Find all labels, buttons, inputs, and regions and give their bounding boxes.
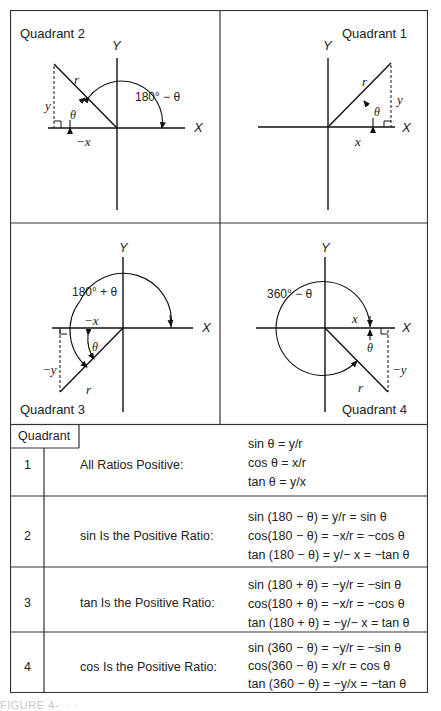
q2-axis-y: Y bbox=[112, 38, 121, 53]
row-equation: sin θ = y/r bbox=[248, 435, 303, 454]
row-equation: cos(180 + θ) = −x/r = −cos θ bbox=[248, 595, 405, 614]
row-quadrant-number: 1 bbox=[24, 458, 31, 472]
quadrant-4-graph bbox=[256, 257, 395, 412]
row-equation: cos(360 − θ) = x/r = cos θ bbox=[248, 657, 390, 676]
row-equation: cos θ = x/r bbox=[248, 454, 306, 473]
row-equation: sin (180 − θ) = y/r = sin θ bbox=[248, 508, 387, 527]
quadrant-1-title: Quadrant 1 bbox=[342, 26, 407, 41]
quadrant-2-graph bbox=[48, 58, 185, 210]
q3-angle-label: 180° + θ bbox=[72, 285, 117, 299]
q1-axis-x: X bbox=[402, 120, 411, 135]
q2-theta: θ bbox=[70, 108, 76, 123]
q4-side-h: x bbox=[352, 311, 358, 327]
row-quadrant-number: 2 bbox=[24, 529, 31, 543]
row-equation: tan (360 − θ) = −y/x = −tan θ bbox=[248, 675, 406, 694]
q1-theta: θ bbox=[374, 105, 380, 120]
row-equation: cos(180 − θ) = −x/r = −cos θ bbox=[248, 527, 405, 546]
row-equation: tan (180 − θ) = y/− x = −tan θ bbox=[248, 546, 410, 565]
q4-hyp: r bbox=[358, 380, 363, 396]
q3-hyp: r bbox=[86, 382, 91, 398]
row-rule: cos Is the Positive Ratio: bbox=[80, 660, 217, 674]
q1-side-h: x bbox=[355, 134, 361, 150]
row-rule: All Ratios Positive: bbox=[80, 458, 184, 472]
q3-axis-y: Y bbox=[119, 240, 128, 255]
q3-side-v: −y bbox=[42, 362, 57, 378]
q2-side-v: y bbox=[45, 98, 51, 114]
quadrant-2-title: Quadrant 2 bbox=[20, 26, 85, 41]
figure-caption-partial: FIGURE 4-· · · bbox=[0, 699, 79, 711]
q2-axis-x: X bbox=[194, 120, 203, 135]
q3-theta: θ bbox=[92, 340, 98, 355]
row-quadrant-number: 4 bbox=[24, 660, 31, 674]
row-equation: tan (180 + θ) = −y/− x = tan θ bbox=[248, 614, 410, 633]
row-equation: sin (180 + θ) = −y/r = −sin θ bbox=[248, 576, 401, 595]
row-equation: tan θ = y/x bbox=[248, 473, 306, 492]
q1-hyp: r bbox=[362, 74, 367, 90]
q4-axis-y: Y bbox=[321, 240, 330, 255]
row-rule: tan Is the Positive Ratio: bbox=[80, 596, 215, 610]
q1-axis-y: Y bbox=[323, 38, 332, 53]
trig-ratio-table: Quadrant 1 All Ratios Positive: sin θ = … bbox=[10, 425, 428, 693]
q4-axis-x: X bbox=[402, 320, 411, 335]
q2-angle-label: 180° − θ bbox=[135, 90, 180, 104]
row-quadrant-number: 3 bbox=[24, 596, 31, 610]
row-rule: sin Is the Positive Ratio: bbox=[80, 529, 213, 543]
q4-angle-label: 360° − θ bbox=[267, 287, 312, 301]
q2-side-h: −x bbox=[76, 134, 91, 150]
q2-hyp: r bbox=[74, 72, 79, 88]
table-header-quadrant: Quadrant bbox=[18, 429, 70, 443]
q4-side-v: −y bbox=[392, 362, 407, 378]
quadrant-4-title: Quadrant 4 bbox=[342, 402, 407, 417]
quadrant-1-graph bbox=[258, 58, 395, 210]
q4-theta: θ bbox=[367, 341, 373, 356]
q3-axis-x: X bbox=[202, 320, 211, 335]
q1-side-v: y bbox=[397, 92, 403, 108]
quadrant-3-title: Quadrant 3 bbox=[20, 402, 85, 417]
quadrant-3-graph bbox=[52, 257, 193, 412]
row-equation: sin (360 − θ) = −y/r = −sin θ bbox=[248, 639, 401, 658]
q3-side-h: −x bbox=[84, 313, 99, 329]
